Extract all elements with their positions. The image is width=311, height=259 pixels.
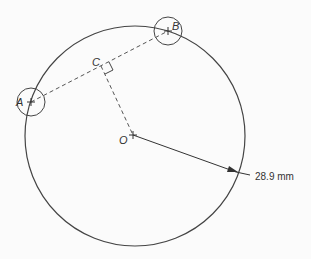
label-c: C xyxy=(92,56,100,68)
arrow-head-icon xyxy=(227,166,238,172)
cross-a xyxy=(27,98,35,106)
radius-line xyxy=(133,135,236,172)
radius-label: 28.9 mm xyxy=(255,171,294,182)
cross-b xyxy=(164,27,172,35)
label-o: O xyxy=(119,134,128,146)
line-co xyxy=(101,66,133,135)
right-angle-marker xyxy=(105,62,113,74)
circle-diagram: A B C O 28.9 mm xyxy=(0,0,311,259)
label-b: B xyxy=(172,20,179,32)
label-a: A xyxy=(15,96,23,108)
